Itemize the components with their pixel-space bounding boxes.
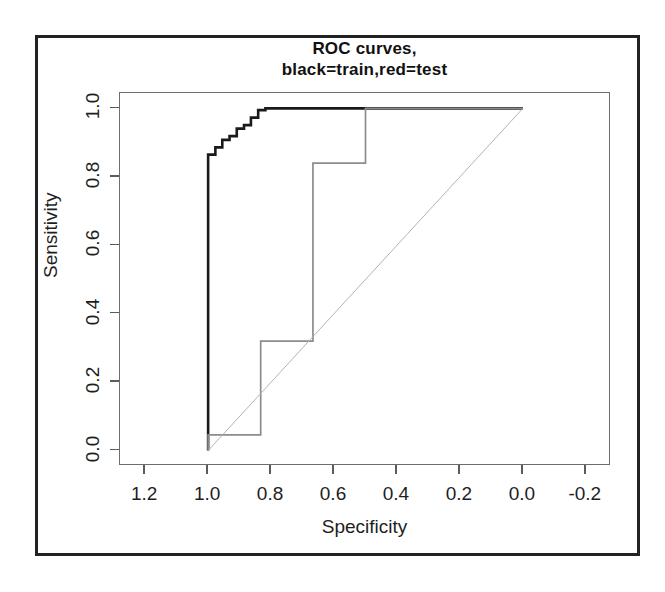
x-tick-label: 0.8 bbox=[240, 483, 300, 505]
y-tick-mark bbox=[110, 312, 119, 313]
plot-svg bbox=[120, 93, 611, 466]
roc-figure: ROC curves,black=train,red=test 1.21.00.… bbox=[0, 0, 665, 592]
x-axis-label: Specificity bbox=[119, 516, 610, 538]
plot-area bbox=[119, 92, 610, 465]
y-tick-label: 0.0 bbox=[82, 419, 104, 479]
y-tick-label: 0.8 bbox=[82, 145, 104, 205]
y-tick-label: 0.6 bbox=[82, 213, 104, 273]
x-tick-label: 1.0 bbox=[177, 483, 237, 505]
y-tick-label: 1.0 bbox=[82, 76, 104, 136]
x-tick-label: 1.2 bbox=[114, 483, 174, 505]
x-tick-label: 0.4 bbox=[366, 483, 426, 505]
chart-title-line-1: ROC curves, bbox=[312, 39, 416, 58]
y-tick-label: 0.4 bbox=[82, 282, 104, 342]
x-tick-mark bbox=[206, 465, 207, 474]
y-tick-mark bbox=[110, 380, 119, 381]
x-tick-label: 0.2 bbox=[429, 483, 489, 505]
x-tick-label: 0.0 bbox=[492, 483, 552, 505]
y-tick-mark bbox=[110, 449, 119, 450]
x-tick-mark bbox=[143, 465, 144, 474]
y-tick-mark bbox=[110, 175, 119, 176]
x-tick-mark bbox=[332, 465, 333, 474]
x-tick-mark bbox=[269, 465, 270, 474]
x-tick-label: -0.2 bbox=[555, 483, 615, 505]
x-tick-mark bbox=[458, 465, 459, 474]
chart-title: ROC curves,black=train,red=test bbox=[119, 38, 610, 80]
y-tick-mark bbox=[110, 107, 119, 108]
chart-title-line-2: black=train,red=test bbox=[282, 60, 448, 79]
x-tick-label: 0.6 bbox=[303, 483, 363, 505]
x-tick-mark bbox=[584, 465, 585, 474]
x-tick-mark bbox=[395, 465, 396, 474]
y-axis-label: Sensitivity bbox=[40, 192, 62, 278]
x-tick-mark bbox=[521, 465, 522, 474]
series-layer bbox=[208, 108, 523, 450]
y-tick-label: 0.2 bbox=[82, 350, 104, 410]
y-tick-mark bbox=[110, 244, 119, 245]
